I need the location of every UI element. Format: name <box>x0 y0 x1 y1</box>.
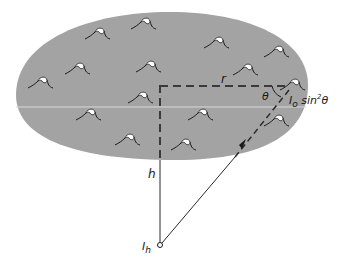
observer-point <box>158 243 163 248</box>
label-theta: θ <box>262 90 269 103</box>
diagram-canvas: r θ Io sin2θ h Ih <box>0 0 346 265</box>
label-h: h <box>148 167 156 181</box>
label-observer: Ih <box>142 240 151 255</box>
ray-line <box>162 157 235 243</box>
